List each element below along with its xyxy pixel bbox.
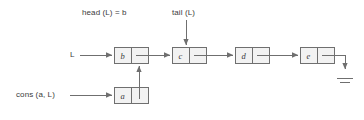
node-c-value: c [179, 51, 183, 61]
node-a-value: a [120, 91, 124, 101]
node-b-value: b [120, 51, 124, 61]
ground-symbol [337, 78, 353, 82]
diagram-canvas: head (L) = b tail (L) L cons (a, L) [0, 0, 364, 120]
node-a [114, 87, 148, 103]
node-e-value: e [307, 51, 311, 61]
diagram-graphics: b c d [0, 0, 364, 120]
